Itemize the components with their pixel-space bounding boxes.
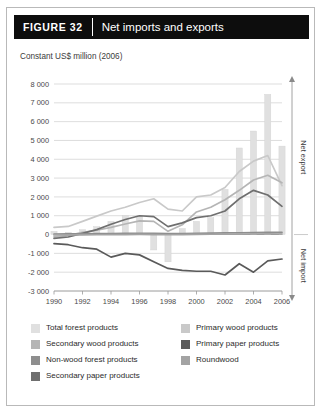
y-axis-tick-label: 2 000 [31,193,50,202]
y-axis-tick-label: 0 [45,230,49,239]
figure-number-tag: FIGURE 32 [14,15,92,39]
x-axis-tick-label: 1992 [74,297,90,306]
figure-card: FIGURE 32 Net imports and exports Consta… [6,7,315,406]
figure-title: Net imports and exports [93,15,224,39]
y-axis-tick-label: 7 000 [31,98,50,107]
y-axis-tick-label: 1 000 [31,211,50,220]
legend-swatch-icon [31,356,40,365]
legend-item[interactable]: Primary wood products [181,320,309,336]
chart-svg: 8 0007 0006 0005 0004 0003 0002 0001 000… [14,66,309,306]
legend-swatch-icon [181,340,190,349]
net-import-axis-label: Net import [299,249,308,283]
chart-bar [250,131,256,235]
figure-header: FIGURE 32 Net imports and exports [14,15,309,39]
legend-item-label: Secondary paper products [46,372,140,380]
chart-bar [265,94,271,234]
x-axis-tick-label: 2004 [245,297,261,306]
x-axis-tick-label: 2000 [188,297,204,306]
legend-swatch-icon [31,372,40,381]
chart-line-series [54,156,282,228]
chart-bar [208,218,214,235]
legend-item-label: Total forest products [46,324,118,332]
y-axis-tick-label: -3 000 [28,287,49,296]
legend-item-label: Primary wood products [196,324,278,332]
y-axis-tick-label: 4 000 [31,155,50,164]
legend-item[interactable]: Roundwood [181,352,309,368]
legend-item-label: Secondary wood products [46,340,139,348]
x-axis-tick-label: 2006 [274,297,290,306]
chart-bar [151,235,157,250]
legend-swatch-icon [181,356,190,365]
legend-swatch-icon [31,340,40,349]
legend-item[interactable]: Non-wood forest products [31,352,181,368]
legend-item-label: Roundwood [196,356,239,364]
chart-bar [279,146,285,234]
legend-item-label: Primary paper products [196,340,279,348]
legend-item[interactable]: Primary paper products [181,336,309,352]
x-axis-tick-label: 1996 [131,297,147,306]
chart-plot-area: 8 0007 0006 0005 0004 0003 0002 0001 000… [14,66,309,306]
y-axis-tick-label: 3 000 [31,174,50,183]
legend-item[interactable]: Total forest products [31,320,181,336]
y-axis-tick-label: -2 000 [28,268,49,277]
y-axis-tick-label: 8 000 [31,80,50,89]
x-axis-tick-label: 2002 [217,297,233,306]
legend-item-label: Non-wood forest products [46,356,138,364]
chart-bar [165,235,171,262]
y-axis-tick-label: 5 000 [31,136,50,145]
legend-column-right: Primary wood productsPrimary paper produ… [181,320,309,368]
legend-column-left: Total forest productsSecondary wood prod… [31,320,181,384]
x-axis-tick-label: 1990 [46,297,62,306]
y-axis-tick-label: 6 000 [31,117,50,126]
chart-line-series [54,175,282,237]
legend-swatch-icon [181,324,190,333]
chart-line-series [54,234,282,235]
x-axis-tick-label: 1994 [103,297,119,306]
chart-bar [136,216,142,234]
chart-subtitle: Constant US$ million (2006) [20,52,122,61]
legend-item[interactable]: Secondary wood products [31,336,181,352]
legend-item[interactable]: Secondary paper products [31,368,181,384]
y-axis-tick-label: -1 000 [28,249,49,258]
net-export-axis-label: Net export [299,140,308,174]
arrow-up-icon [289,76,295,82]
legend-swatch-icon [31,324,40,333]
x-axis-tick-label: 1998 [160,297,176,306]
